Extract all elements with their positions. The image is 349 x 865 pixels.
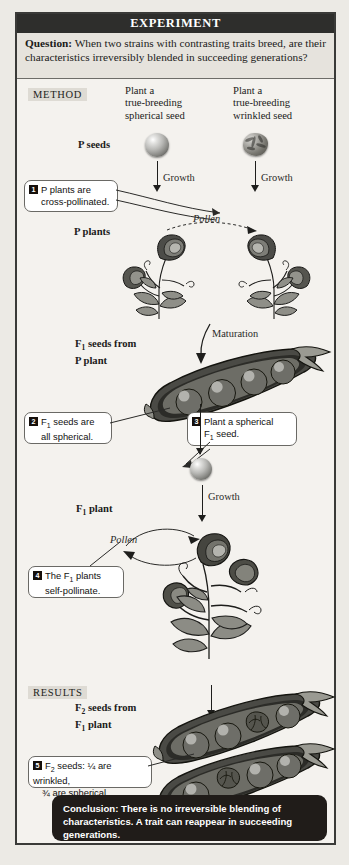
callout-3[interactable]: 3Plant a spherical F1 seed. [187,412,297,446]
callout-4-line1: The F1 plants [45,570,101,581]
growth-label-right: Growth [261,172,293,183]
p-plant-left [110,218,208,320]
callout-1-number: 1 [29,185,38,194]
f2-seeds-label-line1: F2 seeds from [75,702,136,719]
experiment-banner: EXPERIMENT [17,14,334,33]
conclusion-box: Conclusion: There is no irreversible ble… [52,795,327,841]
f2-seeds-label: F2 seeds from F1 plant [75,702,136,735]
f1-seeds-label-line2: P plant [75,355,136,367]
experiment-figure: EXPERIMENT Question: When two strains wi… [0,0,349,865]
right-seed-caption: Plant a true-breeding wrinkled seed [233,85,292,122]
p-seeds-label: P seeds [78,139,110,151]
callout-4[interactable]: 4The F1 plants self-pollinate. [28,566,124,598]
question-label: Question: [25,37,72,49]
callout-2[interactable]: 2F1 seeds are all spherical. [24,412,112,444]
left-seed-caption-line3: spherical seed [125,110,185,122]
callout-1-line1: P plants are [41,184,91,195]
results-section-tag: RESULTS [28,686,87,699]
callout-2-line2: all spherical. [41,431,93,442]
right-seed-caption-line3: wrinkled seed [233,110,292,122]
f1-seeds-label-line1: F1 seeds from [75,338,136,355]
left-seed-caption: Plant a true-breeding spherical seed [125,85,185,122]
growth-label-left: Growth [163,172,195,183]
f2-seeds-label-line2: F1 plant [75,719,136,736]
callout-5-line1: F2 seeds: ¼ are wrinkled, [33,760,111,786]
left-seed-caption-line2: true-breeding [125,97,185,109]
p-plants-label: P plants [74,226,110,238]
method-section-tag: METHOD [28,88,87,101]
f1-plant-label: F1 plant [76,503,112,520]
callout-4-number: 4 [33,571,42,580]
callout-5-number: 5 [33,761,42,770]
left-seed-caption-line1: Plant a [125,85,185,97]
pollen-label-f1: Pollen [110,534,137,545]
f1-seeds-label: F1 seeds from P plant [75,338,136,367]
callout-4-line2: self-pollinate. [45,585,100,596]
callout-3-line2: F1 seed. [204,428,239,439]
maturation-label: Maturation [212,328,258,339]
right-seed-caption-line1: Plant a [233,85,292,97]
callout-2-line1: F1 seeds are [41,416,94,427]
callout-5[interactable]: 5F2 seeds: ¼ are wrinkled, ¾ are spheric… [28,756,152,788]
growth-label-f1: Growth [208,491,240,502]
callout-1[interactable]: 1P plants are cross-pollinated. [24,180,118,212]
callout-1-line2: cross-pollinated. [41,196,109,207]
right-seed-caption-line2: true-breeding [233,97,292,109]
callout-2-number: 2 [29,417,38,426]
question-block: Question: When two strains with contrast… [17,33,334,79]
f1-spherical-seed [190,458,212,480]
callout-3-line1: Plant a spherical [204,416,273,427]
p-spherical-seed [145,133,169,157]
p-plant-right [225,218,323,320]
f1-plant [145,520,275,660]
p-wrinkled-seed [243,133,268,156]
